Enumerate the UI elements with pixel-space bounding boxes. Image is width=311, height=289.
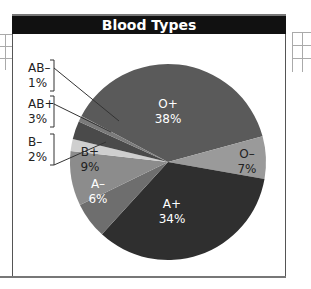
- label-a_pos-pct: 34%: [159, 212, 186, 226]
- pie-chart: O+38%O–7%A+34%A–6%B+9%AB–1%AB+3%B–2%: [0, 0, 311, 289]
- label-b_neg-name: B–: [28, 135, 42, 149]
- label-b_neg-pct: 2%: [28, 150, 47, 164]
- label-a_neg-name: A–: [91, 177, 105, 191]
- label-ab_pos-name: AB+: [28, 97, 55, 111]
- label-a_pos-name: A+: [163, 197, 181, 211]
- bracket-ab_neg: [50, 60, 54, 91]
- label-ab_pos-pct: 3%: [28, 112, 47, 126]
- label-o_pos-pct: 38%: [155, 112, 182, 126]
- label-o_neg-pct: 7%: [237, 162, 256, 176]
- label-ab_neg-pct: 1%: [28, 76, 47, 90]
- label-ab_neg-name: AB–: [28, 61, 50, 75]
- label-o_neg-name: O–: [239, 147, 254, 161]
- label-o_pos-name: O+: [158, 97, 178, 111]
- label-b_pos-pct: 9%: [80, 160, 99, 174]
- label-a_neg-pct: 6%: [88, 192, 107, 206]
- bracket-b_neg: [50, 134, 54, 165]
